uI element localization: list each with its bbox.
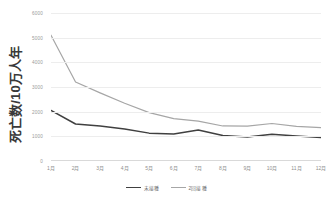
y-axis-tick-label: 2000 <box>32 109 43 114</box>
x-axis-tick-label: 9月 <box>243 164 251 171</box>
x-axis-tick-label: 10月 <box>267 164 278 171</box>
x-axis-line <box>51 160 321 161</box>
x-axis-tick-label: 3月 <box>96 164 104 171</box>
y-axis-tick-label: 4000 <box>32 60 43 65</box>
line-chart: 死亡数/10万人年 0100020003000400050006000 1月2月… <box>0 0 333 202</box>
legend-entry-1[interactable]: 未接種 <box>126 184 159 191</box>
y-axis-tick-label: 0 <box>40 159 43 164</box>
x-axis-tick-label: 12月 <box>316 164 327 171</box>
x-axis-tick-labels: 1月2月3月4月5月6月7月8月9月10月11月12月 <box>51 164 321 176</box>
legend-label: 未接種 <box>144 184 159 191</box>
x-axis-tick-label: 7月 <box>194 164 202 171</box>
gridline <box>51 13 321 14</box>
x-axis-tick-label: 2月 <box>72 164 80 171</box>
legend-line-icon <box>171 187 186 188</box>
plot-area <box>51 13 321 161</box>
x-axis-tick-label: 1月 <box>47 164 55 171</box>
legend-label: 2回接種 <box>189 184 207 191</box>
x-axis-tick-label: 6月 <box>170 164 178 171</box>
gridline <box>51 62 321 63</box>
y-axis-tick-label: 5000 <box>32 35 43 40</box>
gridline <box>51 136 321 137</box>
x-axis-tick-label: 11月 <box>291 164 301 171</box>
gridline <box>51 38 321 39</box>
y-axis-tick-label: 6000 <box>32 11 43 16</box>
x-axis-tick-label: 8月 <box>219 164 227 171</box>
gridline <box>51 112 321 113</box>
x-axis-tick-label: 5月 <box>145 164 153 171</box>
y-axis-tick-labels: 0100020003000400050006000 <box>0 13 47 161</box>
x-axis-tick-label: 4月 <box>121 164 129 171</box>
gridline <box>51 87 321 88</box>
y-axis-tick-label: 1000 <box>32 134 43 139</box>
legend-line-icon <box>126 187 141 189</box>
chart-legend: 未接種2回接種 <box>0 184 333 191</box>
series-line-2 <box>51 35 321 128</box>
legend-entry-2[interactable]: 2回接種 <box>171 184 207 191</box>
y-axis-tick-label: 3000 <box>32 85 43 90</box>
